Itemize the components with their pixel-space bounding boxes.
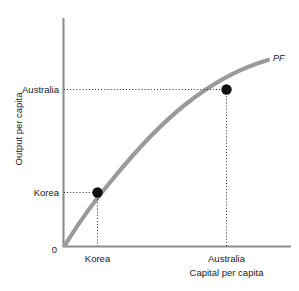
pf-curve — [65, 60, 268, 245]
y-axis-title: Output per capita — [13, 92, 24, 166]
x-axis-title: Capital per capita — [190, 267, 265, 278]
chart-canvas: Output per capita Australia Korea 0 Kore… — [0, 0, 299, 291]
data-point-australia[interactable] — [221, 84, 231, 94]
pf-curve-label: PF — [273, 53, 285, 63]
x-tick-label-korea: Korea — [85, 253, 111, 264]
y-tick-label-korea: Korea — [34, 187, 60, 198]
data-point-korea[interactable] — [92, 187, 102, 197]
origin-label: 0 — [52, 244, 57, 255]
production-function-chart: Output per capita Australia Korea 0 Kore… — [0, 0, 299, 291]
x-tick-label-australia: Australia — [208, 253, 246, 264]
y-tick-label-australia: Australia — [22, 84, 60, 95]
